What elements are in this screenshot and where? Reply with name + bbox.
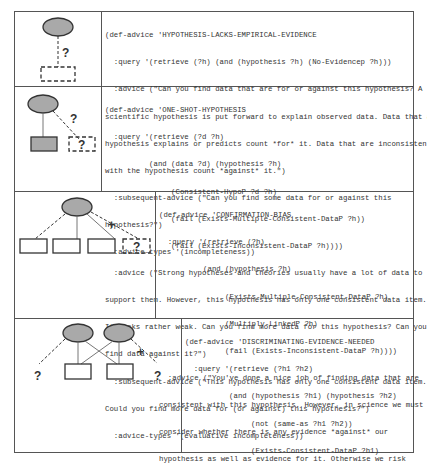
hypothesis-single-data-icon: ? ? [15, 87, 101, 191]
two-hypotheses-identical-evidence-icon: + ? ? [15, 319, 181, 452]
advice-row-hypothesis-lacks-empirical-evidence: ? (def-advice 'HYPOTHESIS-LACKS-EMPIRICA… [15, 12, 413, 87]
code-line: (and (hypothesis ?h1) (hypothesis ?h2) [185, 392, 410, 401]
code-line: (def-advice 'ONE-SHOT-HYPOTHESIS [105, 106, 410, 115]
diagram-cell: ? ? [15, 87, 102, 191]
advice-row-discriminating-evidence-needed: + ? ? (def-advice 'DISCRIMINATING-EVIDEN… [15, 319, 413, 453]
diagram-cell: ? [15, 12, 102, 86]
question-mark: ? [62, 46, 69, 60]
code-line: :query '(retrieve (?h) [159, 238, 410, 247]
code-line: (and (data ?d) (hypothesis ?h) [105, 160, 410, 169]
advice-code: (def-advice 'DISCRIMINATING-EVIDENCE-NEE… [182, 319, 413, 453]
code-line: (not (same-as ?h1 ?h2)) [185, 420, 410, 429]
hypothesis-multiple-data-no-counter-icon: + ? [15, 192, 155, 318]
code-line: :query '(retrieve (?h1 ?h2) [185, 365, 410, 374]
advice-row-confirmation-bias: + ? (def-advice 'CONFIRMATION-BIAS :quer… [15, 192, 413, 319]
code-line: (Exists-Multiple-Consistent-DataP ?h) [159, 293, 410, 302]
advice-code: (def-advice 'CONFIRMATION-BIAS :query '(… [156, 192, 413, 318]
advice-code: (def-advice 'ONE-SHOT-HYPOTHESIS :query … [102, 87, 413, 191]
code-line: (def-advice 'HYPOTHESIS-LACKS-EMPIRICAL-… [105, 31, 410, 40]
code-line: :query '(retrieve (?h) (and (hypothesis … [105, 58, 410, 67]
question-mark: ? [70, 112, 77, 126]
hypothesis-missing-data-icon: ? [15, 12, 101, 86]
question-mark: ? [154, 369, 161, 383]
x-cross-mark: + [137, 345, 144, 359]
code-line: :query '(retrieve (?d ?h) [105, 133, 410, 142]
code-line: (and (hypothesis ?h) [159, 265, 410, 274]
advice-table: ? (def-advice 'HYPOTHESIS-LACKS-EMPIRICA… [14, 11, 414, 453]
advice-code: (def-advice 'HYPOTHESIS-LACKS-EMPIRICAL-… [102, 12, 413, 86]
code-line: (def-advice 'CONFIRMATION-BIAS [159, 211, 410, 220]
question-mark: ? [133, 240, 140, 254]
x-cross-mark: + [108, 218, 115, 232]
diagram-cell: + ? ? [15, 319, 182, 453]
diagram-cell: + ? [15, 192, 156, 318]
advice-row-one-shot-hypothesis: ? ? (def-advice 'ONE-SHOT-HYPOTHESIS :qu… [15, 87, 413, 192]
code-line: (Exists-Consistent-DataP ?h1) [185, 447, 410, 456]
code-line: (def-advice 'DISCRIMINATING-EVIDENCE-NEE… [185, 338, 410, 347]
question-mark: ? [78, 138, 85, 152]
question-mark: ? [34, 369, 41, 383]
